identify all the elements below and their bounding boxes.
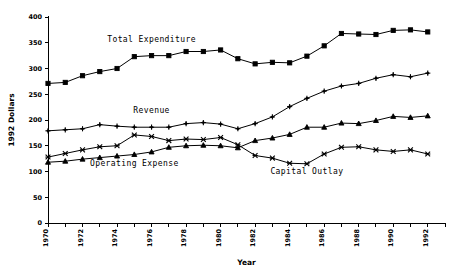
data-point-x <box>270 156 275 161</box>
data-point-square <box>339 31 343 35</box>
data-point-square <box>408 28 412 32</box>
data-point-x <box>166 138 171 143</box>
data-point-square <box>357 32 361 36</box>
data-point-x <box>80 147 85 152</box>
data-point-plus <box>253 121 258 126</box>
data-point-square <box>80 74 84 78</box>
data-point-square <box>270 60 274 64</box>
data-point-plus <box>339 83 344 88</box>
data-point-triangle <box>356 121 361 126</box>
data-point-square <box>132 55 136 59</box>
data-point-square <box>46 81 50 85</box>
data-point-plus <box>166 125 171 130</box>
data-point-x <box>339 145 344 150</box>
x-axis-tick-label: 1992 <box>422 229 430 247</box>
data-point-x <box>253 153 258 158</box>
data-point-triangle <box>132 152 137 157</box>
series-label-total-expenditure: Total Expenditure <box>107 35 196 44</box>
data-point-x <box>149 134 154 139</box>
data-point-square <box>236 57 240 61</box>
series-label-revenue: Revenue <box>133 106 170 115</box>
data-point-x <box>391 149 396 154</box>
x-axis-tick-label: 1988 <box>353 229 361 248</box>
axes <box>48 16 445 223</box>
data-point-triangle <box>218 143 223 148</box>
data-point-triangle <box>80 157 85 162</box>
y-axis-tick-label: 350 <box>28 39 42 47</box>
data-point-square <box>149 54 153 58</box>
data-point-triangle <box>63 159 68 164</box>
data-point-x <box>304 161 309 166</box>
data-point-plus <box>373 76 378 81</box>
data-point-square <box>63 80 67 84</box>
data-point-x <box>183 137 188 142</box>
series-operating-expense <box>46 113 431 164</box>
data-point-plus <box>425 71 430 76</box>
data-point-square <box>322 44 326 48</box>
data-point-plus <box>356 81 361 86</box>
x-axis-tick-label: 1972 <box>77 229 85 247</box>
data-point-plus <box>201 120 206 125</box>
series-label-capital-outlay: Capital Outlay <box>270 167 343 176</box>
x-axis-tick-label: 1974 <box>111 229 119 248</box>
y-axis-tick-label: 300 <box>28 65 42 73</box>
line-chart: 050100150200250300350400 197019721974197… <box>0 0 453 271</box>
series-total-expenditure <box>46 28 430 86</box>
series-label-operating-expense: Operating Expense <box>90 159 179 168</box>
data-point-square <box>288 61 292 65</box>
data-point-x <box>63 151 68 156</box>
data-point-plus <box>183 121 188 126</box>
data-point-x <box>201 137 206 142</box>
data-point-plus <box>391 72 396 77</box>
y-axis-tick-labels: 050100150200250300350400 <box>28 13 42 227</box>
series-revenue <box>45 71 430 134</box>
y-axis-tick-label: 150 <box>28 142 42 150</box>
data-point-plus <box>270 114 275 119</box>
x-axis-tick-label: 1982 <box>249 229 257 247</box>
chart-container: 050100150200250300350400 197019721974197… <box>0 0 453 271</box>
y-axis-tick-label: 250 <box>28 91 42 99</box>
data-point-square <box>426 30 430 34</box>
data-point-square <box>184 49 188 53</box>
data-point-triangle <box>270 135 275 140</box>
data-point-x <box>218 135 223 140</box>
x-axis-tick-label: 1984 <box>284 229 292 248</box>
data-point-plus <box>63 127 68 132</box>
data-point-square <box>167 54 171 58</box>
x-axis-tick-label: 1990 <box>387 229 395 248</box>
data-point-plus <box>45 128 50 133</box>
y-axis-tick-label: 100 <box>28 168 42 176</box>
x-axis-tick-label: 1970 <box>42 229 50 248</box>
y-axis-tick-label: 50 <box>33 194 43 202</box>
data-series <box>45 28 430 166</box>
data-point-x <box>408 147 413 152</box>
data-point-x <box>322 152 327 157</box>
data-point-x <box>287 161 292 166</box>
x-axis-tick-label: 1976 <box>146 229 154 248</box>
data-point-triangle <box>391 114 396 119</box>
y-axis-tick-label: 0 <box>37 219 42 227</box>
data-point-plus <box>218 122 223 127</box>
data-point-triangle <box>322 125 327 130</box>
data-point-square <box>305 54 309 58</box>
data-point-triangle <box>287 132 292 137</box>
data-point-triangle <box>184 143 189 148</box>
x-axis-title: Year <box>236 258 256 267</box>
data-point-triangle <box>115 153 120 158</box>
data-point-plus <box>80 126 85 131</box>
data-point-plus <box>235 126 240 131</box>
data-point-x <box>356 144 361 149</box>
data-point-plus <box>304 96 309 101</box>
data-point-triangle <box>166 145 171 150</box>
data-point-triangle <box>425 113 430 118</box>
data-point-triangle <box>201 143 206 148</box>
data-point-plus <box>149 125 154 130</box>
data-point-plus <box>114 124 119 129</box>
data-point-triangle <box>253 138 258 143</box>
data-point-square <box>201 49 205 53</box>
data-point-plus <box>322 89 327 94</box>
x-axis-tick-label: 1978 <box>180 229 188 248</box>
x-axis-tick-label: 1986 <box>318 229 326 248</box>
series-line <box>48 116 428 162</box>
data-point-square <box>98 69 102 73</box>
